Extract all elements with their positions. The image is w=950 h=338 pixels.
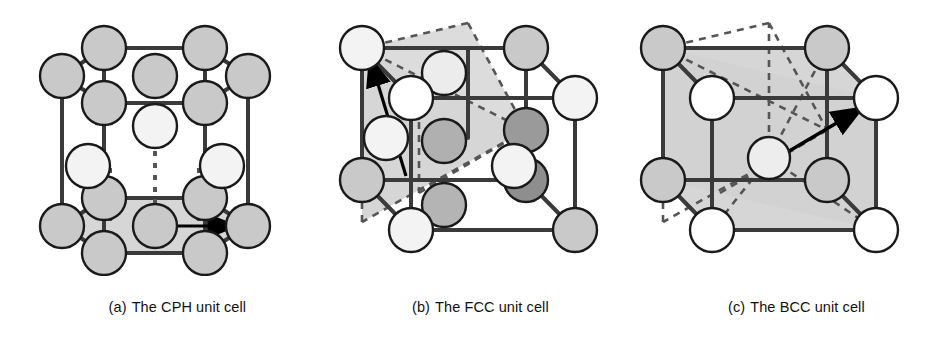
- cph-unit-cell-drawing: [0, 8, 330, 276]
- caption-fcc: (b)The FCC unit cell: [318, 283, 618, 331]
- caption-text-cph: The CPH unit cell: [132, 299, 247, 315]
- panel-fcc: (b)The FCC unit cell: [318, 0, 618, 338]
- crystal-structures-figure: (a)The CPH unit cell: [0, 0, 950, 338]
- panel-cph: (a)The CPH unit cell: [0, 0, 330, 338]
- fcc-unit-cell-drawing: [318, 8, 618, 276]
- caption-bcc: (c)The BCC unit cell: [618, 283, 950, 331]
- caption-text-fcc: The FCC unit cell: [435, 299, 549, 315]
- bcc-unit-cell-drawing: [618, 8, 950, 276]
- caption-tag-cph: (a): [109, 299, 127, 315]
- caption-tag-bcc: (c): [728, 299, 745, 315]
- caption-text-bcc: The BCC unit cell: [750, 299, 865, 315]
- panel-bcc: (c)The BCC unit cell: [618, 0, 950, 338]
- caption-cph: (a)The CPH unit cell: [0, 283, 330, 331]
- bcc-body-center-atom: [748, 137, 790, 179]
- caption-tag-fcc: (b): [412, 299, 430, 315]
